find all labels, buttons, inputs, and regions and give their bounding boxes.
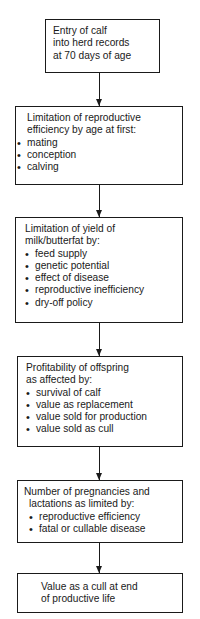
- arrow-down-icon: [99, 185, 100, 217]
- bullet-item: calving: [17, 161, 182, 173]
- bullet-item: genetic potential: [25, 260, 182, 272]
- bullet-item: fatal or cullable disease: [29, 523, 182, 535]
- flow-box-pregnancies-lactations: Number of pregnancies and lactations as …: [17, 480, 183, 543]
- bullet-item: conception: [17, 149, 182, 161]
- flow-box-entry: Entry of calf into herd records at 70 da…: [45, 19, 160, 73]
- arrow-down-icon: [99, 73, 100, 106]
- box-title-line: Limitation of reproductive: [27, 112, 182, 124]
- arrow-down-icon: [99, 543, 100, 573]
- box-title-line: Number of pregnancies and: [24, 486, 182, 498]
- flow-box-offspring-profitability: Profitability of offspring as affected b…: [17, 356, 183, 447]
- box-title-line: at 70 days of age: [53, 50, 159, 62]
- box-title-line: Entry of calf: [53, 25, 159, 37]
- bullet-item: value sold for production: [26, 411, 182, 423]
- bullet-item: survival of calf: [26, 387, 182, 399]
- flow-box-cull-value: Value as a cull at end of productive lif…: [17, 573, 183, 613]
- flow-box-yield: Limitation of yield of milk/butterfat by…: [15, 217, 183, 323]
- bullet-item: value sold as cull: [26, 423, 182, 435]
- box-title-line: Limitation of yield of: [25, 223, 182, 235]
- box-title-line: into herd records: [53, 37, 159, 49]
- bullet-list: survival of calf value as replacement va…: [26, 387, 182, 436]
- bullet-list: reproductive efficiency fatal or cullabl…: [29, 511, 182, 536]
- box-title-line: efficiency by age at first:: [27, 124, 182, 136]
- bullet-list: feed supply genetic potential effect of …: [25, 248, 182, 309]
- box-title-line: milk/butterfat by:: [25, 235, 182, 247]
- bullet-item: reproductive inefficiency: [25, 284, 182, 296]
- arrow-down-icon: [99, 447, 100, 480]
- bullet-item: effect of disease: [25, 272, 182, 284]
- box-title-line: Profitability of offspring: [26, 362, 182, 374]
- flow-box-reproductive-efficiency: Limitation of reproductive efficiency by…: [15, 106, 183, 185]
- arrow-down-icon: [99, 323, 100, 356]
- bullet-item: dry-off policy: [25, 297, 182, 309]
- bullet-item: value as replacement: [26, 399, 182, 411]
- bullet-list: mating conception calving: [17, 137, 182, 174]
- box-title-line: lactations as limited by:: [24, 498, 182, 510]
- box-title-line: Value as a cull at end: [41, 581, 182, 593]
- bullet-item: feed supply: [25, 248, 182, 260]
- box-title-line: of productive life: [41, 593, 182, 605]
- box-title-line: as affected by:: [26, 374, 182, 386]
- bullet-item: mating: [17, 137, 182, 149]
- bullet-item: reproductive efficiency: [29, 511, 182, 523]
